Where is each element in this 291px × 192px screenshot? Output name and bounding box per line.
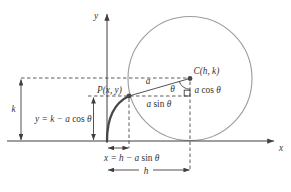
figure-canvas: y x C(h, k) P(x, y) a θ a cos θ a sin θ … (0, 0, 291, 192)
x-axis-label: x (278, 143, 284, 153)
center-label: C(h, k) (194, 66, 220, 77)
a-cos-theta-label: a cos θ (195, 85, 222, 95)
x-equation-label: x = h − a sin θ (103, 153, 160, 163)
angle-arc (179, 81, 190, 89)
k-dimension-label: k (11, 104, 16, 114)
geometry-diagram: y x C(h, k) P(x, y) a θ a cos θ a sin θ … (0, 0, 291, 192)
h-dimension-label: h (144, 166, 149, 176)
point-label: P(x, y) (96, 85, 122, 96)
y-axis-label: y (93, 11, 99, 21)
trace-point-dot (127, 94, 132, 99)
y-equation-label: y = k − a cos θ (34, 114, 92, 124)
center-point-dot (188, 76, 193, 81)
radius-segment (129, 79, 189, 96)
trace-curve (107, 96, 129, 141)
angle-label: θ (170, 84, 175, 94)
a-sin-theta-label: a sin θ (147, 99, 172, 109)
radius-label: a (146, 76, 151, 86)
right-angle-marker (184, 90, 190, 96)
